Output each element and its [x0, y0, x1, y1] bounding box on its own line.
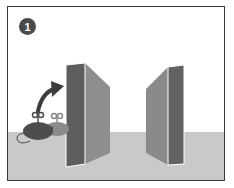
illustration-panel: 1: [7, 6, 225, 181]
step-number-badge: 1: [19, 18, 36, 35]
scene-illustration: [8, 7, 225, 181]
right-wall: [146, 65, 184, 165]
mouse-icon-front: [17, 113, 53, 144]
curved-arrow-icon: [38, 81, 64, 111]
left-wall: [66, 63, 110, 167]
